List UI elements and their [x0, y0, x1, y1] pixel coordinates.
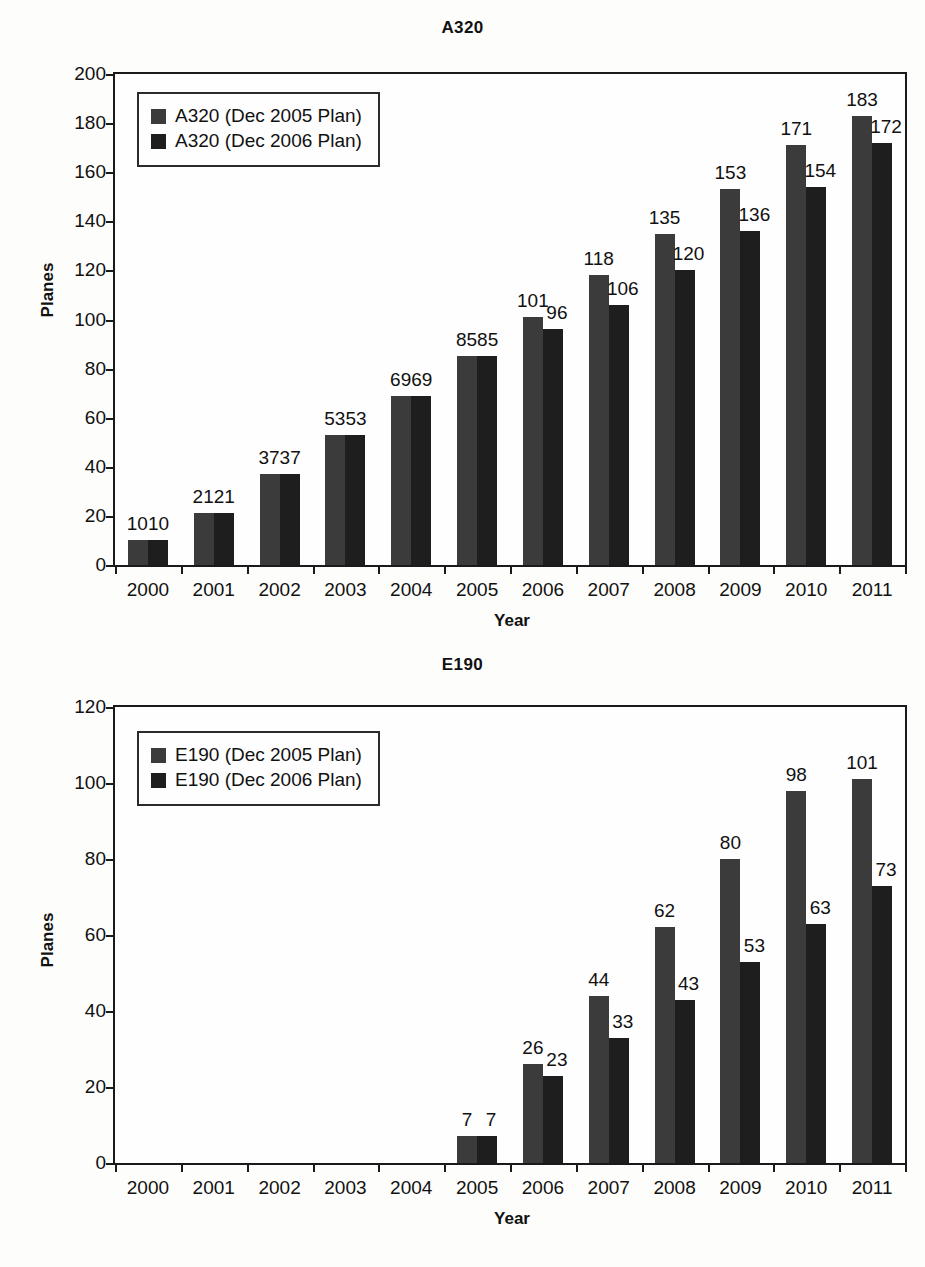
x-tick-label: 2005: [456, 565, 498, 601]
legend-item[interactable]: E190 (Dec 2006 Plan): [151, 769, 362, 791]
bar-series-2: [675, 270, 695, 565]
y-tick-mark: [106, 516, 115, 518]
bar-value-label: 172: [870, 116, 902, 138]
y-tick-mark: [106, 1011, 115, 1013]
bar-series-1: [523, 317, 543, 565]
chart-title-a320: A320: [0, 18, 925, 38]
bar-value-label: 96: [546, 302, 567, 324]
bar-series-2: [740, 962, 760, 1163]
bar-series-1: [128, 540, 148, 565]
x-tick-label: 2010: [785, 565, 827, 601]
x-tick-label: 2001: [193, 1163, 235, 1199]
bar-series-2: [280, 474, 300, 565]
y-tick-mark: [106, 369, 115, 371]
x-tick-mark: [905, 1163, 907, 1172]
y-tick-label: 120: [74, 259, 106, 281]
y-tick-mark: [106, 467, 115, 469]
y-tick-mark: [106, 418, 115, 420]
x-tick-mark: [444, 565, 446, 574]
x-tick-mark: [247, 1163, 249, 1172]
x-tick-mark: [576, 1163, 578, 1172]
x-tick-mark: [708, 565, 710, 574]
bar-series-1: [260, 474, 280, 565]
x-tick-label: 2003: [324, 1163, 366, 1199]
legend-swatch-icon: [151, 773, 166, 788]
bar-series-1: [457, 1136, 477, 1163]
x-tick-mark: [642, 1163, 644, 1172]
y-axis-label-e190: Planes: [38, 880, 58, 1000]
x-tick-mark: [773, 565, 775, 574]
x-tick-label: 2007: [588, 1163, 630, 1199]
x-tick-label: 2002: [258, 1163, 300, 1199]
x-tick-mark: [181, 1163, 183, 1172]
x-tick-label: 2009: [719, 565, 761, 601]
y-tick-mark: [106, 123, 115, 125]
bar-value-label: 63: [810, 897, 831, 919]
bar-value-label: 23: [546, 1049, 567, 1071]
y-tick-label: 60: [85, 407, 106, 429]
bar-series-2: [806, 924, 826, 1163]
bar-series-1: [325, 435, 345, 565]
x-tick-mark: [181, 565, 183, 574]
x-tick-label: 2001: [193, 565, 235, 601]
chart-e190: E190 Planes E190 (Dec 2005 Plan) E190 (D…: [0, 645, 925, 1267]
x-tick-mark: [576, 565, 578, 574]
bar-value-label: 153: [715, 162, 747, 184]
x-tick-mark: [839, 565, 841, 574]
y-tick-mark: [106, 859, 115, 861]
x-tick-label: 2000: [127, 1163, 169, 1199]
y-tick-mark: [106, 1087, 115, 1089]
x-tick-mark: [708, 1163, 710, 1172]
legend-item[interactable]: A320 (Dec 2005 Plan): [151, 105, 362, 127]
bar-value-label: 98: [786, 764, 807, 786]
x-tick-mark: [773, 1163, 775, 1172]
y-tick-label: 100: [74, 309, 106, 331]
x-tick-label: 2007: [588, 565, 630, 601]
y-tick-mark: [106, 320, 115, 322]
bar-series-1: [391, 396, 411, 565]
chart-a320: A320 Planes A320 (Dec 2005 Plan) A320 (D…: [0, 0, 925, 660]
bar-series-2: [872, 886, 892, 1163]
bar-series-2: [543, 1076, 563, 1163]
bar-series-2: [609, 1038, 629, 1163]
bar-value-label: 171: [780, 118, 812, 140]
bar-series-2: [675, 1000, 695, 1163]
y-tick-label: 80: [85, 848, 106, 870]
bar-series-1: [786, 145, 806, 565]
bar-value-label: 6969: [390, 369, 432, 391]
bar-value-label: 154: [804, 160, 836, 182]
x-tick-label: 2006: [522, 1163, 564, 1199]
x-tick-mark: [115, 565, 117, 574]
bar-series-1: [655, 927, 675, 1163]
legend-swatch-icon: [151, 109, 166, 124]
bar-series-1: [457, 356, 477, 565]
x-tick-mark: [905, 565, 907, 574]
x-tick-label: 2008: [653, 565, 695, 601]
chart-title-e190: E190: [0, 655, 925, 675]
y-tick-label: 0: [95, 1152, 106, 1174]
x-tick-label: 2005: [456, 1163, 498, 1199]
x-tick-label: 2010: [785, 1163, 827, 1199]
legend-item[interactable]: A320 (Dec 2006 Plan): [151, 130, 362, 152]
legend-label: A320 (Dec 2006 Plan): [175, 130, 362, 152]
bar-series-1: [720, 189, 740, 565]
x-tick-label: 2008: [653, 1163, 695, 1199]
bar-value-label: 120: [673, 243, 705, 265]
legend-item[interactable]: E190 (Dec 2005 Plan): [151, 744, 362, 766]
x-tick-label: 2006: [522, 565, 564, 601]
y-tick-label: 20: [85, 505, 106, 527]
bar-value-label: 73: [876, 859, 897, 881]
x-tick-label: 2011: [852, 1163, 893, 1199]
y-tick-mark: [106, 565, 115, 567]
y-tick-mark: [106, 1163, 115, 1165]
x-tick-label: 2004: [390, 565, 432, 601]
bar-series-2: [872, 143, 892, 565]
legend-a320: A320 (Dec 2005 Plan) A320 (Dec 2006 Plan…: [137, 92, 380, 167]
bar-value-label: 8585: [456, 329, 498, 351]
bar-series-2: [214, 513, 234, 565]
bar-series-1: [786, 791, 806, 1163]
bar-series-1: [194, 513, 214, 565]
bar-series-2: [543, 329, 563, 565]
bar-series-2: [148, 540, 168, 565]
x-tick-mark: [378, 565, 380, 574]
